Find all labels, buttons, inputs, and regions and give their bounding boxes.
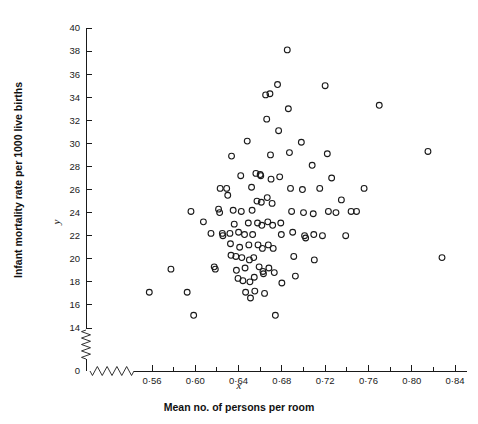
x-axis-tick-label: 0·60 [186,375,205,386]
y-axis-tick-label: 28 [69,161,80,172]
data-point-marker [439,255,445,261]
data-point-marker [238,173,244,179]
data-point-marker [322,83,328,89]
data-point-marker [228,241,234,247]
data-point-marker [251,274,257,280]
data-point-marker [324,151,330,157]
data-point-marker [249,207,255,213]
data-point-marker [290,229,296,235]
data-point-marker [338,197,344,203]
data-point-marker [239,255,245,261]
data-point-marker [268,176,274,182]
data-point-marker [278,220,284,226]
x-axis: 0·560·600·640·680·720·760·800·84 [90,365,467,386]
data-point-marker [279,280,285,286]
data-point-marker [361,185,367,191]
x-axis-break-zigzag [90,367,134,376]
data-point-marker [245,220,251,226]
scatter-plot-svg: 14161820222426283032343638400 0·560·600·… [0,0,478,424]
data-point-marker [329,175,335,181]
data-point-marker [246,242,252,248]
y-axis: 14161820222426283032343638400 [69,22,92,376]
data-point-marker [425,149,431,155]
data-point-marker [242,232,248,238]
x-axis-tick-label: 0·56 [142,375,161,386]
data-point-marker [272,312,278,318]
data-point-marker [227,230,233,236]
data-point-marker [298,139,304,145]
scatter-plot-figure: 14161820222426283032343638400 0·560·600·… [0,0,478,424]
data-point-marker [271,270,277,276]
data-point-marker [275,82,281,88]
data-point-marker [168,266,174,272]
data-point-marker [237,244,243,250]
data-point-marker [184,289,190,295]
y-axis-tick-label: 16 [69,299,80,310]
data-point-marker [217,210,223,216]
data-point-marker [343,233,349,239]
data-point-marker [234,267,240,273]
data-point-marker [276,128,282,134]
y-axis-tick-label: 14 [69,322,80,333]
y-axis-tick-label: 24 [69,207,80,218]
x-axis-tick-label: 0·84 [445,375,464,386]
data-point-marker [284,47,290,53]
y-axis-tick-label: 32 [69,115,80,126]
data-point-marker [268,152,274,158]
data-point-marker [300,187,306,193]
y-axis-tick-label: 26 [69,184,80,195]
data-point-marker [242,265,248,271]
y-axis-tick-label: 38 [69,45,80,56]
data-point-marker [249,184,255,190]
data-point-marker [311,232,317,238]
data-point-marker [270,222,276,228]
y-axis-break-zigzag [82,330,91,359]
y-axis-tick-label: 20 [69,253,80,264]
data-point-marker [240,278,246,284]
data-point-marker [264,116,270,122]
y-axis-tick-label: 36 [69,69,80,80]
data-point-marker [146,289,152,295]
data-point-marker [208,230,214,236]
data-point-marker [236,229,242,235]
data-point-marker [238,209,244,215]
data-point-marker [243,289,249,295]
data-point-marker [291,254,297,260]
y-axis-tick-label: 40 [69,22,80,33]
data-point-marker [310,211,316,217]
data-point-marker [230,207,236,213]
data-point-marker [317,185,323,191]
data-point-marker [266,265,272,271]
data-point-marker [188,209,194,215]
data-point-marker [289,209,295,215]
data-point-marker [229,153,235,159]
x-axis-tick-label: 0·76 [359,375,378,386]
data-point-marker [285,106,291,112]
data-point-marker [288,185,294,191]
data-point-marker [248,295,254,301]
data-point-marker [301,210,307,216]
data-point-marker [244,138,250,144]
data-point-marker [325,209,331,215]
y-axis-tick-label: 34 [69,92,80,103]
data-point-marker [252,288,258,294]
data-point-marker [225,192,231,198]
x-axis-variable-symbol: x [236,379,242,391]
data-point-marker [277,174,283,180]
data-point-marker [262,290,268,296]
data-point-marker [287,150,293,156]
y-axis-tick-label: 18 [69,276,80,287]
data-point-marker [224,185,230,191]
data-point-marker [250,232,256,238]
data-point-marker [264,195,270,201]
data-point-marker [270,245,276,251]
data-point-marker [376,102,382,108]
y-axis-tick-label: 22 [69,230,80,241]
y-axis-variable-symbol: y [50,219,62,225]
x-axis-title: Mean no. of persons per room [164,401,315,413]
data-point-marker [201,219,207,225]
x-axis-tick-label: 0·80 [402,375,421,386]
data-point-marker [292,273,298,279]
data-point-marker [259,245,265,251]
x-axis-tick-label: 0·72 [316,375,335,386]
